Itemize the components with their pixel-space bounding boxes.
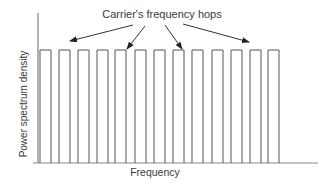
arrow-icon: [127, 26, 145, 49]
carrier-bar: [212, 50, 223, 163]
carrier-bar: [250, 50, 261, 163]
carrier-bar: [97, 50, 108, 163]
diagram-title: Carrier's frequency hops: [102, 8, 222, 20]
carrier-bar: [78, 50, 89, 163]
carrier-bar: [59, 50, 70, 163]
frequency-hopping-diagram: Carrier's frequency hops Power spectrum …: [0, 0, 334, 192]
carrier-bar: [40, 50, 51, 163]
x-axis-label: Frequency: [130, 166, 180, 178]
carrier-bar: [268, 50, 279, 163]
arrow-icon: [183, 24, 249, 42]
carrier-bar: [192, 50, 203, 163]
carrier-bar: [115, 50, 126, 163]
hop-arrows: [70, 24, 249, 49]
carrier-bar: [173, 50, 184, 163]
carrier-bar: [231, 50, 242, 163]
carrier-bars: [40, 50, 279, 163]
arrow-icon: [70, 25, 133, 41]
arrow-icon: [165, 25, 182, 49]
carrier-bar: [154, 50, 165, 163]
y-axis-label: Power spectrum density: [18, 51, 29, 158]
carrier-bar: [135, 50, 146, 163]
